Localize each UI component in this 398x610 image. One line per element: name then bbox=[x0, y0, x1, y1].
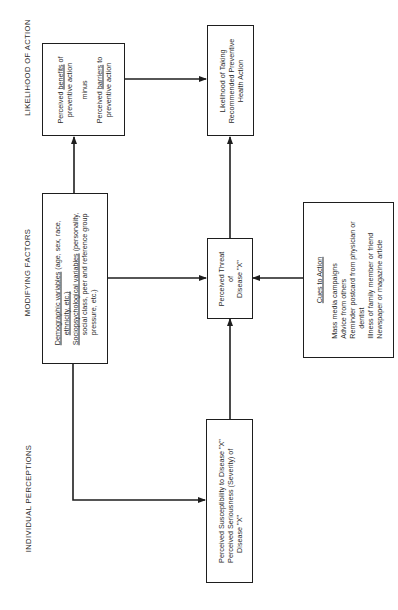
sociopsychological-variables-label: Sociopsychological variables bbox=[71, 253, 80, 345]
benefits-line2: preventive action bbox=[64, 56, 73, 123]
benefits-prefix: Perceived bbox=[55, 89, 64, 123]
threat-line3: Disease "X" bbox=[235, 251, 244, 306]
demographic-variables-label: Demographic variables bbox=[53, 271, 62, 345]
cue-item: Mass media campaigns bbox=[329, 221, 338, 338]
perceived-threat-box: Perceived Threat of Disease "X" bbox=[207, 238, 253, 319]
cue-item: Reminder postcard from physician or bbox=[347, 221, 356, 338]
barriers-suffix: to bbox=[94, 56, 103, 64]
benefits-barriers-box: Perceived benefits of preventive action … bbox=[42, 43, 125, 136]
cue-item: Newspaper or magazine article bbox=[374, 221, 383, 338]
susceptibility-line: Perceived Susceptibility to Disease "X" bbox=[216, 439, 225, 563]
individual-perceptions-text: Perceived Susceptibility to Disease "X" … bbox=[216, 439, 243, 563]
cue-item: dentist bbox=[356, 221, 365, 338]
sociopsychological-variables-detail: (personality, bbox=[71, 212, 80, 253]
demographic-variables-detail: (age, sex, race, bbox=[53, 220, 62, 272]
threat-line2: of bbox=[226, 251, 235, 306]
benefits-suffix: of bbox=[55, 56, 64, 64]
likelihood-line3: Health Action bbox=[235, 38, 244, 123]
likelihood-box: Likelihood of Taking Recommended Prevent… bbox=[207, 25, 254, 136]
sociopsychological-variables-detail3: pressure, etc.) bbox=[89, 212, 98, 345]
benefits-barriers-text: Perceived benefits of preventive action … bbox=[55, 56, 112, 123]
minus-label: minus bbox=[79, 56, 88, 123]
seriousness-line: Perceived Seriousness (Severity) of bbox=[225, 439, 234, 563]
cues-title: Cues to Action bbox=[314, 257, 323, 303]
modifying-factors-text: Demographic variables (age, sex, race, e… bbox=[53, 212, 98, 345]
likelihood-text: Likelihood of Taking Recommended Prevent… bbox=[217, 38, 244, 123]
barriers-word: barriers bbox=[94, 64, 103, 88]
modifying-factors-box: Demographic variables (age, sex, race, e… bbox=[42, 193, 108, 364]
arrow-modifying-to-perceptions bbox=[73, 363, 205, 500]
cue-item: Advice from others bbox=[338, 221, 347, 338]
barriers-prefix: Perceived bbox=[94, 89, 103, 123]
individual-perceptions-box: Perceived Susceptibility to Disease "X" … bbox=[206, 419, 253, 583]
perceived-threat-text: Perceived Threat of Disease "X" bbox=[217, 251, 244, 306]
likelihood-line1: Likelihood of Taking bbox=[217, 38, 226, 123]
sociopsychological-variables-detail2: social class, peer and reference group bbox=[80, 212, 89, 345]
seriousness-line2: Disease "X" bbox=[234, 439, 243, 563]
column-label-individual-perceptions: INDIVIDUAL PERCEPTIONS bbox=[24, 439, 33, 559]
cues-to-action-text: Cues to Action Mass media campaigns Advi… bbox=[314, 221, 383, 338]
barriers-line2: preventive action bbox=[103, 56, 112, 123]
cue-item: Illness of family member or friend bbox=[365, 221, 374, 338]
likelihood-line2: Recommended Preventive bbox=[226, 38, 235, 123]
cues-to-action-box: Cues to Action Mass media campaigns Advi… bbox=[303, 202, 394, 358]
threat-line1: Perceived Threat bbox=[217, 251, 226, 306]
column-label-likelihood-of-action: LIKELIHOOD OF ACTION bbox=[23, 18, 32, 118]
column-label-modifying-factors: MODIFYING FACTORS bbox=[23, 228, 32, 318]
benefits-word: benefits bbox=[55, 64, 64, 89]
demographic-variables-detail2: ethnicity, etc.) bbox=[62, 291, 71, 335]
